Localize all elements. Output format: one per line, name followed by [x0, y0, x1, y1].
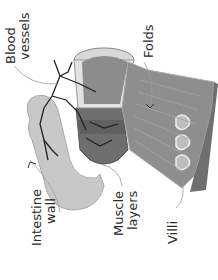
- villi-shapes: [176, 115, 190, 170]
- label-muscle-layers: Muscle layers: [112, 191, 140, 236]
- label-blood-vessels: Blood vessels: [4, 12, 32, 64]
- label-intestine-wall: Intestine wall: [30, 189, 58, 246]
- lumen-folds: [82, 56, 128, 104]
- intestine-diagram: Blood vessels Folds Intestine wall Muscl…: [0, 0, 218, 280]
- label-villi: Villi: [166, 221, 180, 244]
- label-folds: Folds: [142, 24, 156, 58]
- muscle-layers-shape: [76, 108, 128, 164]
